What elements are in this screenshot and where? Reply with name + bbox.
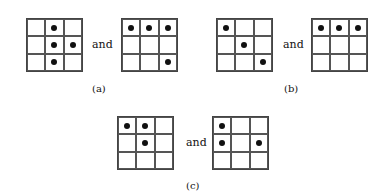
- grid-a-left: [26, 18, 83, 72]
- dot-icon: [51, 59, 57, 65]
- grid-cell: [136, 152, 154, 169]
- grid-cell: [118, 134, 136, 151]
- panel-label-c: (c): [186, 180, 199, 191]
- grid-cell: [118, 117, 136, 134]
- dot-icon: [124, 123, 130, 129]
- grid-cell: [217, 36, 235, 53]
- panel-label-a: (a): [92, 83, 106, 94]
- grid-cell: [217, 19, 235, 36]
- grid-cell: [213, 134, 231, 151]
- grid-cell: [118, 152, 136, 169]
- grid-cell: [64, 54, 82, 71]
- grid-cell: [231, 134, 249, 151]
- and-text-a: and: [92, 38, 113, 51]
- grid-cell: [136, 134, 154, 151]
- dot-icon: [142, 123, 148, 129]
- grid-cell: [330, 54, 348, 71]
- and-text-c: and: [186, 136, 207, 149]
- grid-cell: [349, 19, 367, 36]
- panel-label-b: (b): [284, 83, 298, 94]
- grid-cell: [159, 54, 177, 71]
- grid-cell: [45, 19, 63, 36]
- grid-cell: [64, 36, 82, 53]
- grid-cell: [122, 54, 140, 71]
- grid-cell: [27, 36, 45, 53]
- grid-cell: [250, 117, 268, 134]
- grid-c-left: [117, 116, 174, 170]
- dot-icon: [256, 140, 262, 146]
- grid-cell: [349, 36, 367, 53]
- grid-c-right: [212, 116, 269, 170]
- grid-cell: [159, 19, 177, 36]
- dot-icon: [223, 25, 229, 31]
- grid-cell: [330, 36, 348, 53]
- dot-icon: [51, 25, 57, 31]
- grid-cell: [235, 36, 253, 53]
- grid-cell: [250, 152, 268, 169]
- grid-cell: [122, 36, 140, 53]
- dot-icon: [165, 59, 171, 65]
- grid-cell: [213, 152, 231, 169]
- grid-cell: [64, 19, 82, 36]
- grid-cell: [231, 152, 249, 169]
- grid-cell: [217, 54, 235, 71]
- grid-cell: [45, 54, 63, 71]
- grid-cell: [159, 36, 177, 53]
- grid-cell: [254, 54, 272, 71]
- grid-b-left: [216, 18, 273, 72]
- grid-cell: [330, 19, 348, 36]
- dot-icon: [51, 42, 57, 48]
- grid-b-right: [311, 18, 368, 72]
- grid-a-right: [121, 18, 178, 72]
- dot-icon: [165, 25, 171, 31]
- and-text-b: and: [283, 38, 304, 51]
- grid-cell: [254, 19, 272, 36]
- grid-cell: [140, 54, 158, 71]
- grid-cell: [140, 19, 158, 36]
- dot-icon: [70, 42, 76, 48]
- grid-cell: [312, 54, 330, 71]
- grid-cell: [155, 134, 173, 151]
- grid-cell: [235, 19, 253, 36]
- grid-cell: [45, 36, 63, 53]
- grid-cell: [312, 19, 330, 36]
- dot-icon: [146, 25, 152, 31]
- grid-cell: [349, 54, 367, 71]
- grid-cell: [155, 117, 173, 134]
- dot-icon: [219, 140, 225, 146]
- dot-icon: [142, 140, 148, 146]
- grid-cell: [231, 117, 249, 134]
- grid-cell: [136, 117, 154, 134]
- dot-icon: [128, 25, 134, 31]
- grid-cell: [250, 134, 268, 151]
- dot-icon: [260, 59, 266, 65]
- dot-icon: [241, 42, 247, 48]
- grid-cell: [27, 54, 45, 71]
- grid-cell: [155, 152, 173, 169]
- grid-cell: [122, 19, 140, 36]
- grid-cell: [312, 36, 330, 53]
- grid-cell: [27, 19, 45, 36]
- dot-icon: [318, 25, 324, 31]
- grid-cell: [254, 36, 272, 53]
- dot-icon: [219, 123, 225, 129]
- dot-icon: [355, 25, 361, 31]
- grid-cell: [140, 36, 158, 53]
- grid-cell: [235, 54, 253, 71]
- dot-icon: [336, 25, 342, 31]
- grid-cell: [213, 117, 231, 134]
